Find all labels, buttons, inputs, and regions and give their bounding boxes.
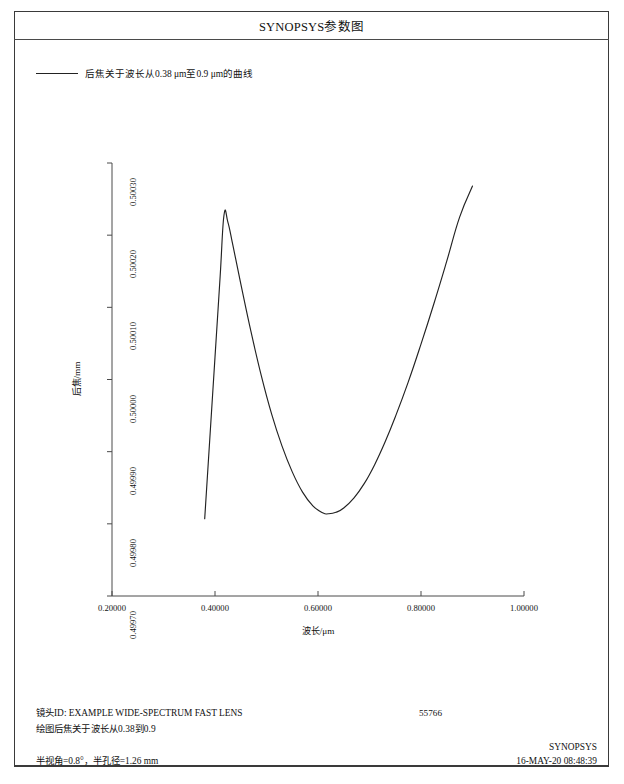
serial-number: 55766	[419, 708, 442, 718]
footer-brand-block: SYNOPSYS 16-MAY-20 08:48:39	[516, 740, 597, 768]
title-bar: SYNOPSYS参数图	[14, 11, 609, 40]
synopsys-plot-page: SYNOPSYS参数图 后焦关于波长从0.38 μm至0.9 μm的曲线 0.2…	[0, 0, 624, 784]
optical-conditions: 半视角=0.8°，半孔径=1.26 mm	[36, 753, 158, 767]
legend: 后焦关于波长从0.38 μm至0.9 μm的曲线	[36, 66, 253, 80]
legend-label: 后焦关于波长从0.38 μm至0.9 μm的曲线	[85, 66, 253, 80]
plot-description-line: 绘图后焦关于波长从0.38到0.9	[36, 722, 243, 738]
legend-line-swatch	[36, 73, 78, 74]
footer-divider	[14, 766, 609, 767]
page-frame	[14, 11, 609, 766]
lens-id-line: 镜头ID: EXAMPLE WIDE-SPECTRUM FAST LENS	[36, 706, 243, 722]
brand-name: SYNOPSYS	[516, 740, 597, 754]
page-title: SYNOPSYS参数图	[259, 16, 364, 35]
footer-lens-info: 镜头ID: EXAMPLE WIDE-SPECTRUM FAST LENS 绘图…	[36, 706, 243, 737]
